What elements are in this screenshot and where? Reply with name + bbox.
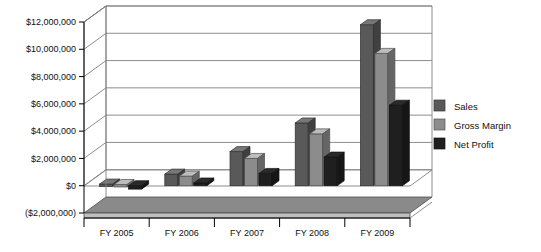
legend-label: Net Profit <box>454 139 494 150</box>
legend-swatch <box>434 100 445 111</box>
x-axis-tick-label: FY 2006 <box>165 228 199 238</box>
y-axis-tick-label: ($2,000,000) <box>25 208 76 218</box>
legend-swatch <box>434 138 445 149</box>
chart-container: $12,000,000$10,000,000$8,000,000$6,000,0… <box>0 0 541 252</box>
y-axis-tick-label: $10,000,000 <box>26 44 76 54</box>
bar-net-profit-FY-2008 <box>324 152 344 186</box>
legend-swatch <box>434 119 445 130</box>
legend-label: Sales <box>454 101 478 112</box>
y-axis-tick-label: $12,000,000 <box>26 17 76 27</box>
legend-item: Sales <box>434 100 478 112</box>
chart-floor <box>84 197 432 218</box>
x-axis-tick-label: FY 2007 <box>230 228 264 238</box>
y-axis-tick-label: $0 <box>66 181 76 191</box>
y-axis-tick-label: $4,000,000 <box>31 126 76 136</box>
y-axis-tick-label: $8,000,000 <box>31 72 76 82</box>
chart-legend: SalesGross MarginNet Profit <box>434 100 511 150</box>
y-axis-tick-label: $6,000,000 <box>31 99 76 109</box>
x-axis-tick-label: FY 2005 <box>100 228 134 238</box>
bar-net-profit-FY-2007 <box>259 168 279 185</box>
y-axis-labels: $12,000,000$10,000,000$8,000,000$6,000,0… <box>25 17 84 218</box>
bar-net-profit-FY-2009 <box>389 100 409 185</box>
legend-label: Gross Margin <box>454 120 511 131</box>
legend-item: Net Profit <box>434 138 494 150</box>
x-axis-tick-label: FY 2008 <box>295 228 329 238</box>
column-chart-3d: $12,000,000$10,000,000$8,000,000$6,000,0… <box>0 0 541 252</box>
x-axis-tick-label: FY 2009 <box>360 228 394 238</box>
legend-item: Gross Margin <box>434 119 511 131</box>
y-axis-tick-label: $2,000,000 <box>31 154 76 164</box>
